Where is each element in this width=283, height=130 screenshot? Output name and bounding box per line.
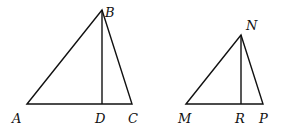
label-c: C bbox=[128, 111, 138, 126]
label-a: A bbox=[11, 111, 21, 126]
triangle-mnp: N M R P bbox=[177, 18, 268, 126]
triangle-mnp-outline bbox=[186, 35, 263, 104]
triangle-abc-outline bbox=[27, 10, 132, 104]
triangle-abc: B A D C bbox=[11, 5, 138, 126]
label-r: R bbox=[234, 111, 245, 126]
label-p: P bbox=[258, 111, 268, 126]
label-m: M bbox=[177, 111, 192, 126]
label-b: B bbox=[104, 5, 115, 20]
geometry-figure: B A D C N M R P bbox=[0, 0, 283, 130]
label-d: D bbox=[94, 111, 106, 126]
label-n: N bbox=[245, 18, 258, 33]
